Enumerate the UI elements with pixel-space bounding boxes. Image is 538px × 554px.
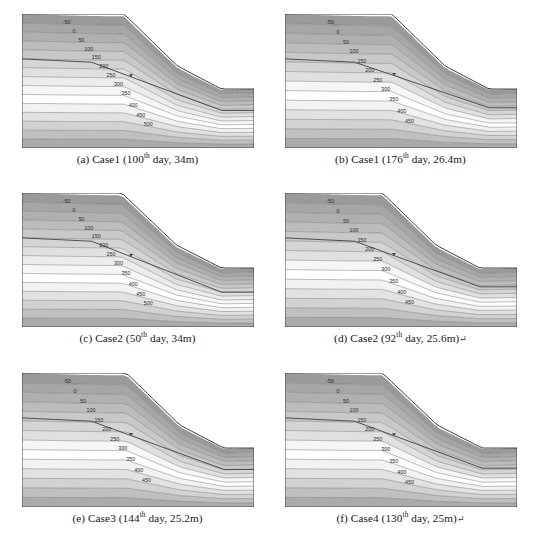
contour-label: 400 bbox=[134, 467, 143, 473]
caption-d-prefix: (d) Case2 (92 bbox=[334, 332, 396, 344]
contour-label: 0 bbox=[72, 28, 75, 34]
panel-a: -50050100150200250300350400450500 (a) Ca… bbox=[10, 14, 265, 191]
contour-label: 150 bbox=[357, 416, 366, 422]
caption-b-mid: day, 26.4m) bbox=[409, 153, 466, 165]
contour-label: 450 bbox=[142, 477, 151, 483]
contour-label: 350 bbox=[389, 96, 398, 102]
panel-a-caption: (a) Case1 (100th day, 34m) bbox=[77, 153, 199, 166]
contour-plot-c-svg: -50050100150200250300350400450500 bbox=[22, 193, 254, 327]
contour-label: 150 bbox=[91, 54, 100, 60]
contour-label: 50 bbox=[79, 397, 85, 403]
contour-label: 200 bbox=[102, 426, 111, 432]
contour-label: -50 bbox=[62, 198, 70, 204]
contour-label: 300 bbox=[114, 260, 123, 266]
contour-plot-b-svg: -50050100150200250300350400450 bbox=[285, 14, 517, 148]
contour-label: 200 bbox=[365, 246, 374, 252]
panel-b: -50050100150200250300350400450 (b) Case1… bbox=[273, 14, 528, 191]
contour-label: 300 bbox=[381, 86, 390, 92]
contour-label: 250 bbox=[106, 72, 115, 78]
contour-label: 100 bbox=[84, 225, 93, 231]
contour-label: 0 bbox=[336, 29, 339, 35]
caption-d-mid: day, 25.6m) bbox=[402, 332, 459, 344]
contour-plot-a-svg: -50050100150200250300350400450500 bbox=[22, 14, 254, 148]
contour-label: 150 bbox=[91, 234, 100, 240]
contour-label: -50 bbox=[62, 19, 70, 25]
contour-label: 0 bbox=[336, 208, 339, 214]
plot-f: -50050100150200250300350400450 bbox=[285, 373, 517, 507]
contour-label: 300 bbox=[114, 81, 123, 87]
plot-b: -50050100150200250300350400450 bbox=[285, 14, 517, 148]
contour-label: 150 bbox=[357, 237, 366, 243]
contour-label: -50 bbox=[326, 19, 334, 25]
contour-label: 150 bbox=[94, 416, 103, 422]
contour-label: 400 bbox=[397, 108, 406, 114]
panel-c-caption: (c) Case2 (50th day, 34m) bbox=[80, 332, 196, 345]
contour-label: 300 bbox=[118, 445, 127, 451]
caption-a-mid: day, 34m) bbox=[150, 153, 198, 165]
contour-label: 400 bbox=[397, 289, 406, 295]
contour-label: 100 bbox=[84, 46, 93, 52]
contour-label: -50 bbox=[326, 199, 334, 205]
contour-label: 100 bbox=[349, 407, 358, 413]
contour-label: 200 bbox=[365, 67, 374, 73]
contour-label: 250 bbox=[110, 435, 119, 441]
contour-label: 250 bbox=[373, 77, 382, 83]
contour-label: 50 bbox=[78, 216, 84, 222]
contour-plot-f-svg: -50050100150200250300350400450 bbox=[285, 373, 517, 507]
panel-grid: -50050100150200250300350400450500 (a) Ca… bbox=[10, 14, 528, 550]
contour-label: 350 bbox=[126, 456, 135, 462]
plot-e: -50050100150200250300350400450 bbox=[22, 373, 254, 507]
contour-label: 500 bbox=[143, 300, 152, 306]
contour-label: 200 bbox=[365, 426, 374, 432]
plot-c: -50050100150200250300350400450500 bbox=[22, 193, 254, 327]
caption-f-tail: ↵ bbox=[457, 514, 465, 524]
contour-label: 400 bbox=[128, 282, 137, 288]
contour-label: 50 bbox=[78, 37, 84, 43]
contour-label: 450 bbox=[136, 291, 145, 297]
contour-label: -50 bbox=[326, 378, 334, 384]
contour-label: 50 bbox=[342, 218, 348, 224]
contour-plot-e-svg: -50050100150200250300350400450 bbox=[22, 373, 254, 507]
panel-e-caption: (e) Case3 (144th day, 25.2m) bbox=[72, 512, 202, 525]
panel-c: -50050100150200250300350400450500 (c) Ca… bbox=[10, 193, 265, 370]
caption-e-prefix: (e) Case3 (144 bbox=[72, 512, 139, 524]
caption-b-prefix: (b) Case1 (176 bbox=[335, 153, 403, 165]
caption-f-mid: day, 25m) bbox=[408, 512, 456, 524]
contour-label: 350 bbox=[389, 458, 398, 464]
contour-label: -50 bbox=[63, 378, 71, 384]
contour-label: 100 bbox=[349, 48, 358, 54]
panel-d-caption: (d) Case2 (92th day, 25.6m)↵ bbox=[334, 332, 467, 345]
contour-label: 300 bbox=[381, 446, 390, 452]
contour-label: 450 bbox=[405, 299, 414, 305]
contour-label: 200 bbox=[99, 243, 108, 249]
contour-label: 50 bbox=[342, 39, 348, 45]
contour-label: 500 bbox=[143, 121, 152, 127]
contour-label: 250 bbox=[106, 251, 115, 257]
contour-label: 400 bbox=[128, 102, 137, 108]
caption-f-prefix: (f) Case4 (130 bbox=[336, 512, 402, 524]
contour-label: 100 bbox=[349, 227, 358, 233]
contour-label: 350 bbox=[389, 279, 398, 285]
contour-label: 150 bbox=[357, 58, 366, 64]
contour-label: 100 bbox=[86, 407, 95, 413]
contour-label: 0 bbox=[72, 207, 75, 213]
contour-label: 450 bbox=[405, 478, 414, 484]
panel-d: -50050100150200250300350400450 (d) Case2… bbox=[273, 193, 528, 370]
panel-b-caption: (b) Case1 (176th day, 26.4m) bbox=[335, 153, 466, 166]
contour-label: 400 bbox=[397, 469, 406, 475]
caption-c-mid: day, 34m) bbox=[147, 332, 195, 344]
contour-label: 250 bbox=[373, 435, 382, 441]
panel-f-caption: (f) Case4 (130th day, 25m)↵ bbox=[336, 512, 464, 525]
contour-plot-d-svg: -50050100150200250300350400450 bbox=[285, 193, 517, 327]
caption-d-tail: ↵ bbox=[459, 334, 467, 344]
contour-label: 300 bbox=[381, 267, 390, 273]
plot-a: -50050100150200250300350400450500 bbox=[22, 14, 254, 148]
contour-label: 450 bbox=[136, 112, 145, 118]
contour-label: 200 bbox=[99, 63, 108, 69]
caption-e-mid: day, 25.2m) bbox=[146, 512, 203, 524]
contour-label: 50 bbox=[342, 397, 348, 403]
caption-c-prefix: (c) Case2 (50 bbox=[80, 332, 142, 344]
contour-label: 0 bbox=[336, 388, 339, 394]
panel-e: -50050100150200250300350400450 (e) Case3… bbox=[10, 373, 265, 550]
contour-label: 350 bbox=[121, 271, 130, 277]
